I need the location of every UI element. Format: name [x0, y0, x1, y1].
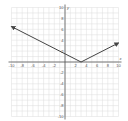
- x-tick-label: -10: [9, 63, 16, 68]
- x-axis-label: x: [119, 56, 123, 61]
- y-tick-label: -10: [58, 114, 65, 119]
- x-tick-label: 10: [116, 63, 121, 68]
- y-tick-label: 10: [59, 5, 64, 10]
- y-axis-label: y: [66, 5, 70, 10]
- graph-svg: -10-8-6-4-2246810108642-2-4-6-8-10xy: [0, 0, 128, 121]
- coordinate-plane: -10-8-6-4-2246810108642-2-4-6-8-10xy: [0, 0, 128, 121]
